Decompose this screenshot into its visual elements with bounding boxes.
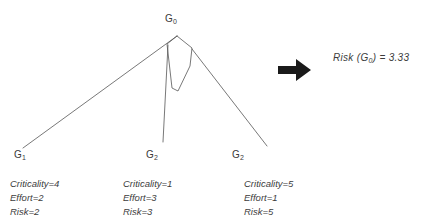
risk-value-leaf-3: Risk=5 (244, 205, 293, 219)
right-arrow-icon (278, 58, 312, 82)
node-label-leaf-1: G1 (14, 149, 26, 160)
node-label-leaf-1-text: G (14, 149, 22, 160)
edge-root-to-leaf-1 (23, 36, 177, 148)
diagram-canvas: G0 G1 G2 G2 Criticality=4 Effort=2 Risk=… (0, 0, 428, 224)
goal-tree-edges (0, 0, 428, 224)
node-label-leaf-2: G2 (146, 149, 158, 160)
attributes-leaf-1: Criticality=4 Effort=2 Risk=2 (10, 177, 59, 219)
edge-root-to-leaf-3 (192, 49, 267, 146)
criticality-value-leaf-2: Criticality=1 (123, 177, 172, 191)
effort-value-leaf-1: Effort=2 (10, 191, 59, 205)
effort-value-leaf-3: Effort=1 (244, 191, 293, 205)
node-label-root: G0 (165, 13, 177, 24)
result-value: 3.33 (389, 52, 410, 63)
criticality-value-leaf-3: Criticality=5 (244, 177, 293, 191)
node-label-leaf-3: G2 (232, 149, 244, 160)
effort-value-leaf-2: Effort=3 (123, 191, 172, 205)
risk-value-leaf-2: Risk=3 (123, 205, 172, 219)
result-function-name: Risk (333, 52, 354, 63)
node-label-leaf-3-subscript: 2 (240, 154, 244, 161)
attributes-leaf-3: Criticality=5 Effort=1 Risk=5 (244, 177, 293, 219)
edge-root-to-leaf-2-loop (167, 36, 192, 91)
node-label-leaf-2-text: G (146, 149, 154, 160)
risk-value-leaf-1: Risk=2 (10, 205, 59, 219)
result-expression: Risk (G0) = 3.33 (333, 52, 409, 63)
node-label-root-subscript: 0 (173, 18, 177, 25)
node-label-leaf-3-text: G (232, 149, 240, 160)
attributes-leaf-2: Criticality=1 Effort=3 Risk=3 (123, 177, 172, 219)
result-argument-subscript: 0 (368, 57, 372, 64)
edge-root-to-leaf-2 (163, 45, 168, 142)
node-label-leaf-1-subscript: 1 (22, 154, 26, 161)
node-label-root-text: G (165, 13, 173, 24)
node-label-leaf-2-subscript: 2 (154, 154, 158, 161)
criticality-value-leaf-1: Criticality=4 (10, 177, 59, 191)
